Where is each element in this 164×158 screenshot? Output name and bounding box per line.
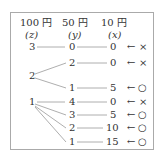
- mark-circle: ○: [138, 83, 147, 93]
- arrow-icon: ←: [127, 97, 135, 107]
- y-value: 1: [69, 137, 75, 147]
- y-value: 1: [69, 83, 75, 93]
- mark-circle: ○: [138, 110, 147, 120]
- mark-circle: ○: [138, 123, 147, 133]
- y-value: 3: [69, 110, 75, 120]
- x-value: 5: [110, 110, 116, 120]
- mark-cross: ×: [139, 58, 147, 68]
- z-value: 2: [29, 71, 35, 81]
- z-value: 3: [29, 42, 35, 52]
- z-value: 1: [29, 97, 35, 107]
- arrow-icon: ←: [127, 110, 135, 120]
- x-value: 0: [110, 58, 116, 68]
- y-value: 4: [69, 97, 75, 107]
- mark-cross: ×: [139, 97, 147, 107]
- arrow-icon: ←: [127, 42, 135, 52]
- arrow-icon: ←: [127, 137, 135, 147]
- y-value: 0: [69, 42, 75, 52]
- x-value: 5: [110, 83, 116, 93]
- x-value: 0: [110, 42, 116, 52]
- tree-lines: [0, 0, 164, 158]
- arrow-icon: ←: [127, 83, 135, 93]
- mark-circle: ○: [138, 137, 147, 147]
- x-value: 10: [106, 123, 119, 133]
- y-value: 2: [69, 123, 75, 133]
- arrow-icon: ←: [127, 58, 135, 68]
- y-value: 2: [69, 58, 75, 68]
- x-value: 15: [106, 137, 119, 147]
- mark-cross: ×: [139, 42, 147, 52]
- x-value: 0: [110, 97, 116, 107]
- arrow-icon: ←: [127, 123, 135, 133]
